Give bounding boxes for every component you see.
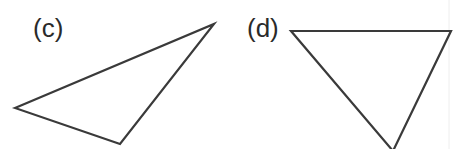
triangle-diagram: (c) (d) bbox=[0, 0, 457, 149]
triangle-d bbox=[291, 31, 451, 149]
figure-d: (d) bbox=[247, 13, 451, 149]
figure-label-c: (c) bbox=[33, 13, 63, 43]
figure-label-d: (d) bbox=[247, 13, 279, 43]
figure-c: (c) bbox=[15, 13, 214, 144]
